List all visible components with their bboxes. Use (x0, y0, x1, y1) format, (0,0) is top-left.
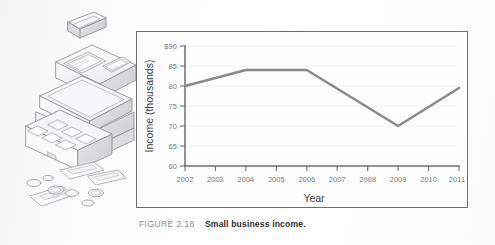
y-tick-label: 65 (169, 142, 177, 151)
y-tick-label: 75 (169, 102, 177, 111)
x-tick-label: 2009 (390, 175, 407, 184)
x-tick-label: 2007 (329, 175, 346, 184)
x-tick-label: 2002 (177, 175, 194, 184)
x-tick-label: 2004 (237, 175, 254, 184)
line-chart: $90 85 80 75 70 65 60 2002 2003 (137, 32, 467, 207)
y-axis-title: Income (thousands) (143, 60, 155, 153)
x-tick-label: 2011 (449, 175, 465, 184)
income-data-line (185, 70, 459, 126)
y-tick-label: 60 (169, 162, 177, 171)
gridlines (185, 46, 457, 146)
x-tick-label: 2010 (420, 175, 437, 184)
x-axis-title: Year (303, 192, 325, 204)
x-tick-label: 2003 (207, 175, 224, 184)
y-tick-label: $90 (164, 42, 177, 51)
x-tick-label: 2008 (359, 175, 376, 184)
figure-number: FIGURE 2.18 (139, 219, 195, 229)
figure-caption: FIGURE 2.18 Small business income. (139, 219, 479, 229)
receipt-bar (68, 12, 106, 38)
figure-caption-text: Small business income. (205, 219, 306, 229)
x-tick-label: 2005 (268, 175, 285, 184)
y-tick-label: 80 (169, 82, 177, 91)
figure-page: $90 85 80 75 70 65 60 2002 2003 (0, 0, 495, 245)
x-tick-label: 2006 (298, 175, 315, 184)
y-tick-label: 85 (169, 62, 177, 71)
y-tick-label: 70 (169, 122, 177, 131)
cash-register-illustration (0, 0, 152, 245)
scattered-bills (30, 162, 126, 206)
chart-panel: $90 85 80 75 70 65 60 2002 2003 (136, 31, 468, 208)
